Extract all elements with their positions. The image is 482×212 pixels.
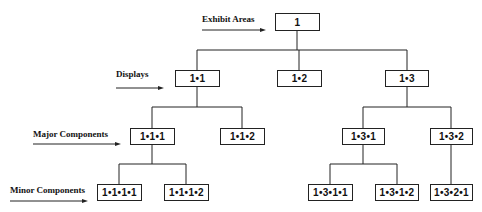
- node-1-3-2: 1•3•2: [430, 128, 473, 145]
- arrowhead-icon: [158, 86, 164, 90]
- node-1-1-1-2: 1•1•1•2: [164, 184, 209, 201]
- hierarchy-diagram: Exhibit Areas Displays Major Components …: [0, 0, 482, 212]
- level-label-major-components: Major Components: [33, 129, 108, 139]
- connector-lines: [0, 0, 482, 212]
- node-1-3-2-1: 1•3•2•1: [430, 184, 473, 201]
- arrowhead-icon: [82, 199, 88, 203]
- node-1-3-1: 1•3•1: [342, 128, 385, 145]
- node-1: 1: [275, 13, 320, 31]
- node-1-1: 1•1: [175, 70, 220, 87]
- node-1-1-1-1: 1•1•1•1: [97, 184, 142, 201]
- level-label-displays: Displays: [116, 69, 149, 79]
- level-label-minor-components: Minor Components: [10, 185, 85, 195]
- node-1-3-1-2: 1•3•1•2: [375, 184, 419, 201]
- arrowhead-icon: [115, 142, 121, 146]
- arrowhead-icon: [260, 28, 266, 32]
- node-1-3: 1•3: [385, 70, 429, 87]
- node-1-1-2: 1•1•2: [220, 128, 265, 145]
- node-1-3-1-1: 1•3•1•1: [308, 184, 353, 201]
- level-label-exhibit-areas: Exhibit Areas: [202, 14, 255, 24]
- node-1-1-1: 1•1•1: [130, 128, 175, 145]
- node-1-2: 1•2: [277, 70, 322, 87]
